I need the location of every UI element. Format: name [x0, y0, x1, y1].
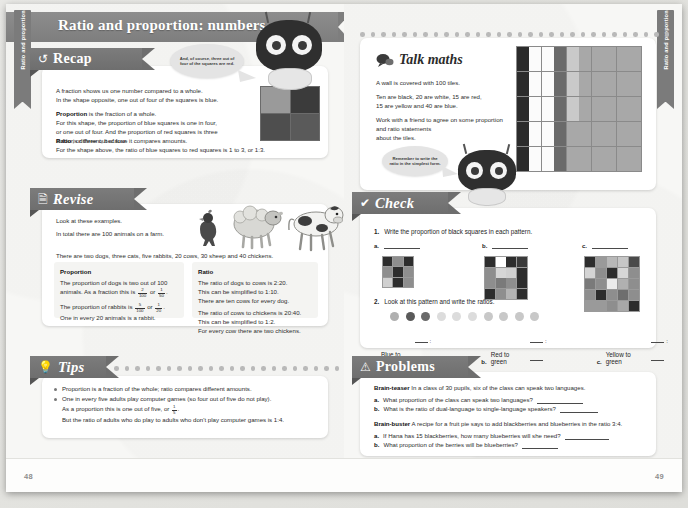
tile-cell-blue [617, 134, 629, 146]
pattern-a-cell [393, 278, 403, 288]
pattern-c-cell [585, 301, 595, 311]
tile-cell-yellow [567, 72, 579, 84]
pattern-c-cell [585, 257, 595, 267]
tips-card: Proportion is a fraction of the whole; r… [42, 376, 328, 438]
section-header-tips: 💡 Tips [30, 356, 106, 378]
pattern-dot [530, 312, 539, 321]
brain-teaser-text: In a class of 30 pupils, six of the clas… [410, 384, 586, 391]
pattern-c-cell [618, 257, 628, 267]
robot-eye-right [292, 35, 312, 55]
tile-cell-blue [567, 122, 579, 134]
check-q1-text: Write the proportion of black squares in… [384, 228, 532, 235]
check-q2-number: 2. [374, 298, 379, 305]
sheep-illustration [228, 204, 284, 250]
tile-cell-blue [629, 122, 641, 134]
right-page: Ratio and proportion Talk maths [344, 4, 682, 492]
tick-icon: ✔ [360, 197, 370, 209]
tile-cell-blue [604, 159, 616, 171]
tile-cell-white [542, 109, 554, 121]
revise-prop-l3b: or [146, 303, 155, 310]
pattern-a-cell [383, 267, 393, 277]
tile-cell-red [554, 47, 566, 59]
tile-cell-blue [567, 134, 579, 146]
check-q2b-answer[interactable]: : [530, 329, 561, 365]
tile-cell-blue [579, 147, 591, 159]
recap-swatch-grid [260, 86, 320, 141]
pattern-a-cell [383, 278, 393, 288]
recap-p2-l1: Proportion is the fraction of a whole. [56, 109, 254, 118]
speech-bubble-icon [376, 53, 394, 68]
check-q1b-row: b. [482, 243, 528, 249]
pattern-c-cell [629, 279, 639, 289]
tile-cell-white [529, 97, 541, 109]
check-q1c-answer-line[interactable] [592, 243, 628, 249]
tile-cell-blue [617, 47, 629, 59]
recap-swatch-cell [291, 87, 320, 113]
pattern-dot [484, 312, 493, 321]
check-pattern-b [484, 256, 528, 300]
robot2-head [458, 150, 516, 192]
recap-swatch-cell [291, 114, 320, 140]
pattern-b-cell [496, 268, 506, 278]
check-q1b-answer-line[interactable] [492, 243, 528, 249]
check-q1a-answer-line[interactable] [384, 243, 420, 249]
tile-cell-blue [592, 134, 604, 146]
pattern-b-cell [517, 268, 527, 278]
fraction-1-5: 15 [172, 405, 176, 415]
tile-cell-white [529, 47, 541, 59]
tile-cell-blue [579, 84, 591, 96]
tile-cell-blue [604, 84, 616, 96]
pattern-dot [468, 312, 477, 321]
tile-cell-blue [579, 134, 591, 146]
robot2-eye-left [466, 162, 483, 179]
cow-illustration [286, 204, 344, 252]
refresh-icon: ↺ [38, 53, 48, 65]
tile-cell-white [542, 59, 554, 71]
tile-cell-blue [567, 147, 579, 159]
fraction-5-100: 5100 [135, 303, 144, 313]
tile-cell-blue [579, 109, 591, 121]
brain-teaser-b-answer-line[interactable] [560, 407, 598, 413]
tile-cell-white [529, 122, 541, 134]
tile-cell-blue [617, 122, 629, 134]
revise-ratio-l5: This can be simplified to 1:2. [198, 317, 312, 326]
tile-cell-blue [617, 97, 629, 109]
tips-item-2-l2b: . [178, 405, 180, 412]
check-q2c-answer[interactable]: : [651, 329, 682, 365]
check-q2c-text: Yellow to green [606, 351, 648, 365]
brain-buster-a-answer-line[interactable] [565, 434, 609, 440]
tile-cell-blue [617, 59, 629, 71]
tile-cell-blue [592, 47, 604, 59]
tile-cell-white [529, 84, 541, 96]
pattern-b-cell [517, 257, 527, 267]
tile-cell-blue [604, 134, 616, 146]
brain-buster-b-answer-line[interactable] [522, 443, 558, 449]
section-header-tips-label: Tips [58, 359, 84, 376]
tile-cell-blue [592, 109, 604, 121]
recap-speech-bubble: And, of course, three out of four of the… [170, 44, 244, 78]
screenshot-root: Ratio and proportion: numbers Ratio and … [0, 0, 688, 508]
book-spread: Ratio and proportion: numbers Ratio and … [6, 4, 682, 492]
tile-cell-blue [629, 109, 641, 121]
pattern-a-cell [383, 257, 393, 267]
recap-p1-l2: In the shape opposite, one out of four o… [56, 95, 254, 104]
pattern-c-cell [585, 279, 595, 289]
pattern-b-cell [485, 257, 495, 267]
revise-prop-l3a: The proportion of rabbits is [60, 303, 134, 310]
pattern-b-cell [496, 278, 506, 288]
pattern-a-cell [393, 257, 403, 267]
brain-buster-text: A recipe for a fruit pie says to add bla… [410, 420, 622, 427]
section-header-check-label: Check [375, 195, 414, 212]
robot2-body [468, 188, 506, 206]
revise-ratio-title: Ratio [198, 267, 312, 276]
pattern-b-cell [485, 268, 495, 278]
document-icon: 🗎 [38, 193, 48, 205]
brain-teaser-statement: Brain-teaser In a class of 30 pupils, si… [374, 383, 642, 392]
talk-maths-l3: 15 are yellow and 40 are blue. [376, 101, 526, 110]
tips-item-1-text: Proportion is a fraction of the whole; r… [62, 384, 252, 394]
revise-proportion-l2: animals. As a fraction this is 2100 or 1… [60, 287, 178, 299]
brain-teaser-a-text: What proportion of the class can speak t… [383, 395, 533, 404]
tips-list: Proportion is a fraction of the whole; r… [42, 376, 328, 425]
tile-cell-red [554, 134, 566, 146]
tile-cell-white [542, 159, 554, 171]
